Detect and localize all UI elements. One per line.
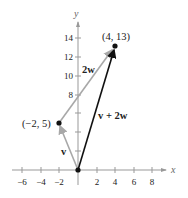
- y-tick-labels: 8 10 12 14: [64, 33, 74, 100]
- svg-text:2: 2: [95, 177, 100, 187]
- svg-text:8: 8: [150, 177, 155, 187]
- svg-text:4: 4: [113, 177, 118, 187]
- svg-text:−6: −6: [17, 177, 27, 187]
- point-4-13: [112, 43, 117, 48]
- point-neg2-5: [56, 120, 61, 125]
- svg-text:10: 10: [64, 71, 74, 81]
- svg-text:6: 6: [132, 177, 137, 187]
- svg-text:8: 8: [69, 90, 74, 100]
- svg-text:12: 12: [64, 52, 73, 62]
- y-axis-label: y: [73, 8, 79, 19]
- vector-label-v-plus-2w: v + 2w: [98, 110, 128, 121]
- svg-text:−2: −2: [54, 177, 64, 187]
- axes: x y: [12, 8, 176, 185]
- vector-diagram: x y −6 −4 −2 2 4 6 8 8 10 12 14: [0, 0, 188, 198]
- x-tick-labels: −6 −4 −2 2 4 6 8: [17, 177, 155, 187]
- point-label-4-13: (4, 13): [102, 31, 130, 43]
- svg-text:−4: −4: [36, 177, 46, 187]
- x-axis-label: x: [170, 164, 176, 175]
- svg-text:14: 14: [64, 33, 74, 43]
- vector-label-v: v: [61, 146, 67, 157]
- point-origin: [75, 167, 80, 172]
- point-label-neg2-5: (−2, 5): [22, 118, 51, 130]
- vector-label-2w: 2w: [82, 64, 95, 75]
